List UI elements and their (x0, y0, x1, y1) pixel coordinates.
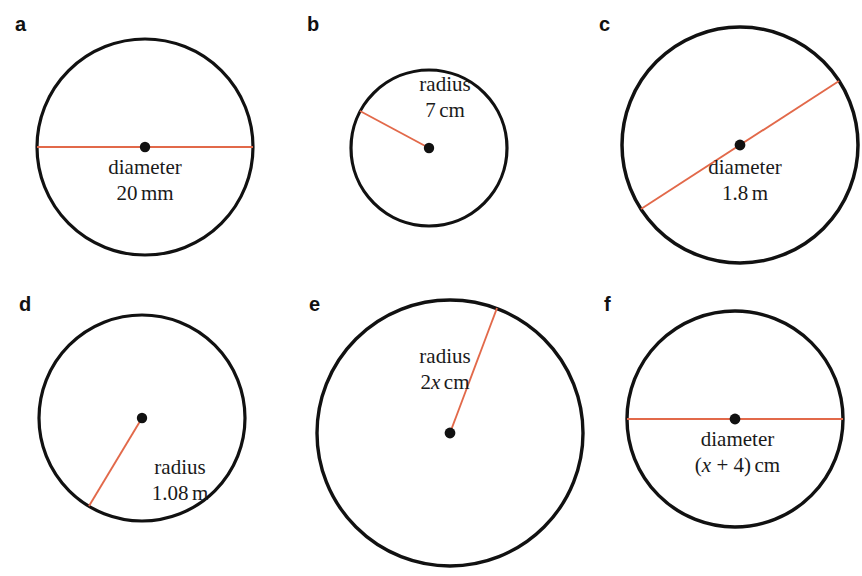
center-dot-b (424, 143, 434, 153)
circle-diagram-a (0, 0, 300, 290)
circle-diagram-c (580, 0, 862, 290)
circle-worksheet-figure: a diameter 20mm b radius 7cm c (0, 0, 862, 576)
annotation-e-term: radius (375, 344, 515, 370)
annotation-c-value: 1.8m (660, 181, 830, 207)
annotation-a-value: 20mm (60, 181, 230, 207)
annotation-e-value: 2xcm (375, 370, 515, 396)
center-dot-a (140, 142, 150, 152)
annotation-b-term: radius (370, 72, 520, 98)
annotation-b: radius 7cm (370, 72, 520, 123)
annotation-b-value: 7cm (370, 98, 520, 124)
circle-diagram-d (0, 285, 290, 576)
annotation-a-term: diameter (60, 155, 230, 181)
annotation-d: radius 1.08m (105, 455, 255, 506)
center-dot-f (730, 414, 741, 425)
annotation-c-term: diameter (660, 155, 830, 181)
center-dot-c (735, 140, 746, 151)
center-dot-d (137, 413, 147, 423)
annotation-a: diameter 20mm (60, 155, 230, 206)
circle-diagram-e (290, 285, 580, 576)
annotation-f: diameter (x + 4)cm (655, 427, 820, 478)
annotation-f-value: (x + 4)cm (655, 453, 820, 479)
annotation-d-term: radius (105, 455, 255, 481)
annotation-f-term: diameter (655, 427, 820, 453)
annotation-c: diameter 1.8m (660, 155, 830, 206)
circle-diagram-b (290, 0, 580, 290)
annotation-d-value: 1.08m (105, 481, 255, 507)
annotation-e: radius 2xcm (375, 344, 515, 395)
center-dot-e (445, 428, 456, 439)
